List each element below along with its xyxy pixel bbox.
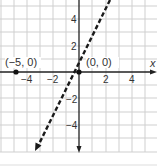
line-arrow-icon — [35, 143, 42, 152]
point-neg5-0-label: (−5, 0) — [5, 56, 37, 68]
x-tick-2: 2 — [103, 74, 109, 85]
y-tick-4: 4 — [71, 14, 77, 25]
x-axis-arrow-icon — [150, 70, 157, 75]
y-tick-neg4: −4 — [66, 120, 78, 131]
y-tick-neg2: −2 — [66, 94, 78, 105]
y-tick-2: 2 — [71, 41, 77, 52]
point-origin-label: (0, 0) — [86, 56, 112, 68]
point-neg5-0 — [13, 69, 18, 74]
x-tick-neg4: −4 — [21, 74, 33, 85]
point-origin — [76, 69, 81, 74]
x-axis-label: x — [149, 57, 156, 69]
coordinate-plane: (−5, 0) (0, 0) x −4 −2 2 4 4 2 −2 −4 — [0, 0, 157, 166]
x-tick-4: 4 — [129, 74, 135, 85]
x-tick-neg2: −2 — [47, 74, 59, 85]
